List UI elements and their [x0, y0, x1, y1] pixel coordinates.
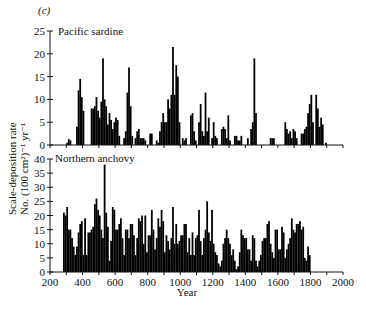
bar	[319, 127, 321, 145]
bar	[154, 249, 156, 272]
x-tick-label: 1800	[299, 276, 322, 288]
bar	[113, 210, 115, 272]
bar	[193, 131, 195, 145]
chart-canvas: (c) Scale-deposition rate No. (100 cm²)⁻…	[0, 0, 366, 309]
bar	[265, 238, 267, 272]
bar	[293, 129, 295, 145]
bar	[304, 129, 306, 145]
y-tick-label: 5	[40, 116, 46, 128]
bar	[183, 140, 185, 145]
bar	[118, 136, 120, 145]
bar	[177, 244, 179, 272]
bar	[94, 106, 96, 145]
bar	[253, 58, 255, 145]
bar	[156, 238, 158, 272]
bar	[162, 221, 164, 272]
bar	[221, 129, 223, 145]
bar	[177, 77, 179, 145]
bar	[99, 118, 101, 145]
bar	[92, 109, 94, 145]
bar	[96, 199, 98, 272]
bar	[210, 241, 212, 272]
bar	[138, 129, 140, 145]
bar	[83, 255, 85, 272]
bar	[175, 65, 177, 145]
bar	[130, 106, 132, 145]
y-tick-label: 20	[34, 210, 46, 222]
bar	[307, 113, 309, 145]
bar	[123, 255, 125, 272]
bar	[81, 97, 83, 145]
bar	[164, 252, 166, 272]
bar	[198, 122, 200, 145]
bar	[146, 252, 148, 272]
bar	[213, 244, 215, 272]
bar	[190, 255, 192, 272]
bar	[276, 230, 278, 272]
bar	[263, 238, 265, 272]
bar	[102, 238, 104, 272]
bar	[107, 124, 109, 145]
bar	[258, 261, 260, 272]
bar	[197, 235, 199, 272]
bar	[252, 122, 254, 145]
sardine-bars	[66, 47, 327, 145]
bar	[170, 238, 172, 272]
x-tick-label: 1400	[234, 276, 257, 288]
bar	[270, 244, 272, 272]
y-tick-label: 40	[34, 153, 46, 165]
bar	[219, 266, 221, 272]
bar	[301, 134, 303, 145]
bar	[115, 230, 117, 272]
bar	[271, 252, 273, 272]
bar	[96, 97, 98, 145]
bar	[131, 224, 133, 272]
bar	[87, 232, 89, 272]
bar	[291, 138, 293, 145]
bar	[242, 235, 244, 272]
bar	[286, 249, 288, 272]
bar	[161, 210, 163, 272]
bar	[281, 227, 283, 272]
y-tick-label: 25	[34, 25, 46, 37]
bar	[284, 122, 286, 145]
bar	[97, 111, 99, 145]
bar	[260, 255, 262, 272]
y-tick-label: 35	[34, 167, 46, 179]
bar	[270, 138, 272, 145]
bar	[74, 255, 76, 272]
bar	[174, 244, 176, 272]
bar	[231, 255, 233, 272]
bar	[169, 109, 171, 145]
bar	[293, 230, 295, 272]
bar	[188, 238, 190, 272]
bar	[70, 140, 72, 145]
bar	[302, 134, 304, 145]
bar	[183, 224, 185, 272]
bar	[164, 122, 166, 145]
bar	[140, 138, 142, 145]
y-tick-label: 25	[34, 195, 46, 207]
bar	[221, 261, 223, 272]
bar	[289, 238, 291, 272]
bar	[312, 122, 314, 145]
bar	[234, 261, 236, 272]
bar	[151, 134, 153, 145]
bar	[253, 238, 255, 272]
x-tick-label: 600	[107, 276, 124, 288]
bar	[86, 255, 88, 272]
bar	[211, 210, 213, 272]
x-tick-label: 1200	[202, 276, 225, 288]
bar	[310, 95, 312, 145]
bar	[144, 216, 146, 273]
bar	[63, 213, 65, 272]
bar	[182, 235, 184, 272]
y-tick-label: 5	[40, 252, 46, 264]
x-tick-label: 200	[42, 276, 59, 288]
bar	[112, 129, 114, 145]
bar	[203, 238, 205, 272]
bar	[162, 113, 164, 145]
bar	[208, 118, 210, 145]
bar	[252, 235, 254, 272]
bar	[71, 238, 73, 272]
